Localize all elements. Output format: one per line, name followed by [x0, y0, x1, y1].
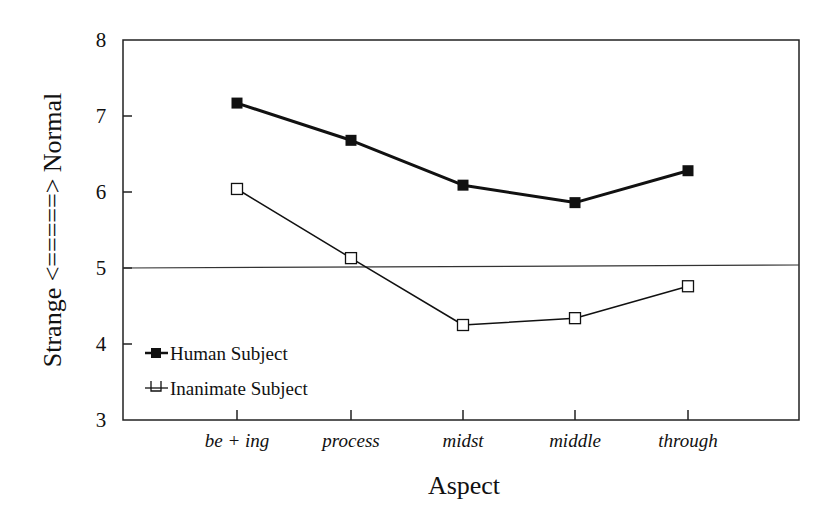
x-category-label: be + ing	[205, 430, 270, 451]
y-tick-label: 3	[96, 408, 107, 432]
x-axis-title: Aspect	[428, 471, 501, 500]
filled-square-marker	[570, 197, 581, 208]
series-inanimate-subject	[232, 183, 694, 330]
filled-square-marker	[683, 165, 694, 176]
y-axis-ticks: 345678	[96, 28, 132, 432]
filled-square-icon	[151, 348, 161, 358]
legend-item-inanimate: Inanimate Subject	[145, 378, 308, 399]
open-square-marker	[346, 253, 357, 264]
legend-label-human: Human Subject	[170, 343, 288, 364]
x-category-label: middle	[549, 430, 601, 451]
series-line	[237, 189, 688, 325]
y-tick-label: 6	[96, 180, 107, 204]
legend-label-inanimate: Inanimate Subject	[170, 378, 308, 399]
y-tick-label: 7	[96, 104, 107, 128]
x-category-label: process	[320, 430, 379, 451]
series-human-subject	[232, 98, 694, 209]
open-square-marker	[232, 183, 243, 194]
reference-line-5	[123, 265, 799, 268]
open-square-icon	[151, 381, 161, 391]
y-tick-label: 8	[96, 28, 107, 52]
line-chart: 345678 be + ingprocessmidstmiddlethrough…	[0, 0, 834, 527]
y-axis-title: Strange <=====> Normal	[38, 93, 67, 368]
x-category-label: midst	[442, 430, 484, 451]
filled-square-marker	[458, 180, 469, 191]
filled-square-marker	[346, 135, 357, 146]
x-category-label: through	[658, 430, 717, 451]
legend-item-human: Human Subject	[145, 343, 288, 364]
x-axis-ticks: be + ingprocessmidstmiddlethrough	[205, 410, 718, 451]
legend: Human Subject Inanimate Subject	[145, 343, 308, 399]
series-layer	[232, 98, 694, 331]
open-square-marker	[570, 313, 581, 324]
y-tick-label: 5	[96, 256, 107, 280]
y-tick-label: 4	[96, 332, 107, 356]
filled-square-marker	[232, 98, 243, 109]
open-square-marker	[683, 281, 694, 292]
open-square-marker	[458, 320, 469, 331]
reference-line	[123, 265, 799, 268]
